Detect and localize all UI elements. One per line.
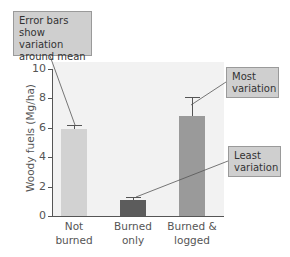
callout-least-variation-text: Least variation [234, 150, 278, 173]
callout-most-variation-text: Most variation [232, 71, 276, 94]
callout-most-variation: Most variation [226, 67, 279, 98]
callout-error-bars-text: Error bars show variation around mean [19, 15, 86, 62]
callout-least-variation: Least variation [228, 146, 281, 177]
callout-error-bars: Error bars show variation around mean [13, 11, 92, 56]
